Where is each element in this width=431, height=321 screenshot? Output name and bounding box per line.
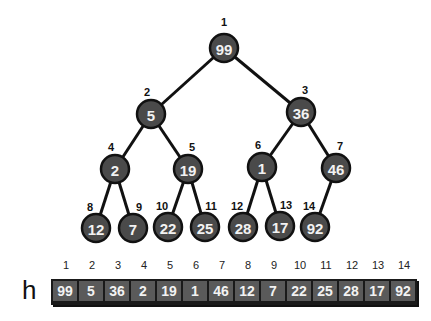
svg-text:25: 25 [197, 220, 214, 237]
tree-node: 24 [101, 141, 129, 183]
array-index: 8 [235, 259, 261, 271]
array-cell: 5 [79, 281, 103, 301]
tree-node: 467 [322, 140, 350, 182]
svg-text:92: 92 [307, 220, 324, 237]
tree-node: 1713 [266, 199, 294, 240]
array-index: 1 [53, 259, 79, 271]
array-index-row: 1234567891011121314 [53, 259, 417, 271]
tree-node: 991 [210, 16, 238, 62]
svg-text:2: 2 [111, 162, 119, 179]
array-index: 13 [365, 259, 391, 271]
svg-text:1: 1 [258, 160, 266, 177]
array-cell: 12 [235, 281, 259, 301]
array-index: 7 [209, 259, 235, 271]
svg-text:14: 14 [303, 200, 316, 212]
array-cell: 7 [261, 281, 285, 301]
array-cell: 25 [313, 281, 337, 301]
array-index: 12 [339, 259, 365, 271]
svg-text:12: 12 [231, 200, 243, 212]
array-index: 14 [391, 259, 417, 271]
heap-tree: 9915236324195164671287922102511281217139… [0, 0, 431, 321]
tree-node: 9214 [301, 200, 329, 241]
array-label: h [22, 275, 36, 306]
tree-node: 2210 [154, 200, 182, 241]
heap-array: 995362191461272225281792 [51, 279, 417, 305]
svg-text:99: 99 [216, 41, 233, 58]
array-cell: 19 [157, 281, 181, 301]
array-cell: 1 [183, 281, 207, 301]
array-cell: 46 [209, 281, 233, 301]
svg-text:7: 7 [129, 221, 137, 238]
array-cell: 28 [339, 281, 363, 301]
tree-node: 79 [119, 201, 147, 242]
svg-text:2: 2 [144, 86, 150, 98]
svg-text:7: 7 [337, 140, 343, 152]
svg-text:5: 5 [189, 141, 195, 153]
array-cell: 22 [287, 281, 311, 301]
svg-text:12: 12 [88, 221, 105, 238]
array-cell: 36 [105, 281, 129, 301]
svg-text:11: 11 [205, 200, 217, 212]
tree-node: 363 [287, 84, 315, 126]
tree-node: 2511 [191, 200, 219, 241]
array-index: 10 [287, 259, 313, 271]
array-index: 9 [261, 259, 287, 271]
svg-text:6: 6 [255, 139, 261, 151]
svg-text:5: 5 [147, 107, 155, 124]
array-cell: 2 [131, 281, 155, 301]
svg-text:36: 36 [293, 105, 310, 122]
tree-node: 16 [248, 139, 276, 181]
array-cell: 92 [391, 281, 415, 301]
tree-node: 2812 [229, 200, 257, 241]
array-cell: 99 [53, 281, 77, 301]
array-index: 4 [131, 259, 157, 271]
svg-text:1: 1 [221, 16, 227, 28]
array-index: 6 [183, 259, 209, 271]
array-index: 3 [105, 259, 131, 271]
svg-text:4: 4 [108, 141, 115, 153]
array-index: 5 [157, 259, 183, 271]
array-cell: 17 [365, 281, 389, 301]
tree-node: 128 [82, 201, 110, 242]
svg-text:22: 22 [160, 220, 177, 237]
svg-text:13: 13 [280, 199, 292, 211]
svg-text:19: 19 [180, 162, 197, 179]
svg-text:28: 28 [235, 220, 252, 237]
array-index: 11 [313, 259, 339, 271]
array-index: 2 [79, 259, 105, 271]
tree-node: 195 [174, 141, 202, 183]
svg-text:10: 10 [156, 200, 168, 212]
svg-text:3: 3 [302, 84, 308, 96]
svg-text:9: 9 [136, 201, 142, 213]
svg-text:17: 17 [272, 219, 289, 236]
svg-text:8: 8 [87, 201, 93, 213]
svg-text:46: 46 [328, 161, 345, 178]
tree-node: 52 [137, 86, 165, 128]
